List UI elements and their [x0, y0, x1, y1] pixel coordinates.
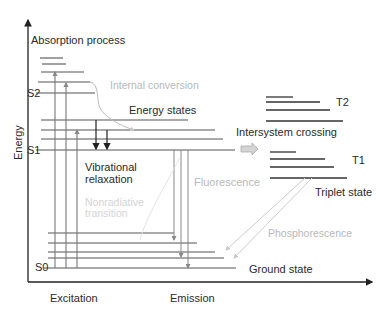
state-markers	[36, 93, 48, 268]
state-label-s0: S0	[35, 262, 48, 273]
jablonski-diagram: Absorption process S2 S1 S0 Energy Inter…	[0, 0, 388, 313]
excitation-axis-label: Excitation	[50, 293, 98, 304]
internal-conversion-label: Internal conversion	[110, 80, 199, 91]
s1-levels	[41, 120, 235, 150]
intersystem-crossing-label: Intersystem crossing	[236, 127, 337, 138]
state-label-s2: S2	[27, 88, 40, 99]
fluorescence-arrows	[174, 150, 188, 268]
t1-levels	[270, 152, 347, 178]
energy-states-label: Energy states	[129, 105, 196, 116]
triplet-state-label: Triplet state	[315, 187, 372, 198]
nonradiative-label-line1: Nonradiative	[85, 197, 144, 208]
intersystem-crossing-arrow	[241, 143, 258, 155]
energy-axis-label: Energy	[13, 125, 24, 160]
s0-levels	[48, 233, 236, 268]
vibrational-relaxation-label-line1: Vibrational	[85, 162, 137, 173]
state-label-t2: T2	[336, 97, 349, 108]
nonradiative-label-line2: transition	[85, 208, 128, 219]
phosphorescence-arrows	[226, 178, 312, 258]
absorption-process-title: Absorption process	[31, 35, 125, 46]
diagram-canvas	[0, 0, 388, 313]
t2-levels	[266, 97, 343, 121]
phosphorescence-label: Phosphorescence	[268, 228, 352, 239]
fluorescence-label: Fluorescence	[194, 177, 260, 188]
vibrational-relaxation-arrows	[96, 120, 107, 149]
excitation-arrows	[55, 72, 77, 268]
state-label-t1: T1	[352, 155, 365, 166]
ground-state-label: Ground state	[249, 264, 313, 275]
state-label-s1: S1	[27, 145, 40, 156]
vibrational-relaxation-label-line2: relaxation	[85, 174, 133, 185]
emission-axis-label: Emission	[170, 293, 215, 304]
